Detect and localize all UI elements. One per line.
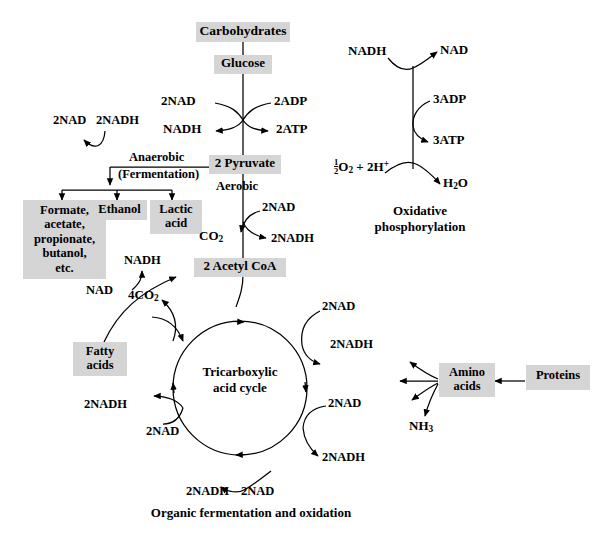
product-line-3: propionate, [34,232,95,246]
ammonia-subscript: 3 [429,424,434,434]
tca-left-nadh: 2NADH [84,397,127,411]
tca-cycle-title: Tricarboxylic acid cycle [180,364,300,395]
amino-acids-box: Amino acids [439,363,495,397]
oxphos-nad-label: NAD [440,43,468,58]
oxphos-adp-label: 3ADP [433,92,466,107]
lactic-acid-box: Lactic acid [150,200,202,234]
pyruvate-ox-nadh-label: 2NADH [271,231,314,245]
fermentation-label: (Fermentation) [118,167,199,181]
glycolysis-nad-label: 2NAD [161,94,196,109]
tca-title-line-2: acid cycle [213,380,267,395]
water-text: H [443,175,453,190]
product-line-4: butanol, [42,246,86,260]
co2-text: CO [199,228,219,243]
tca-co2-label: 4CO2 [128,288,159,304]
tca-right-lower-nad: 2NAD [328,396,361,410]
co2-label: CO2 [199,229,223,245]
fatty-acids-line-2: acids [86,358,113,372]
figure-caption: Organic fermentation and oxidation [101,505,401,521]
tca-co2-subscript: 2 [154,293,159,303]
product-line-2: acetate, [44,217,85,231]
carbohydrates-label: Carbohydrates [200,23,287,38]
aerobic-label: Aerobic [216,179,258,193]
glycolysis-atp-label: 2ATP [276,122,308,137]
proteins-label: Proteins [536,368,580,382]
fermentation-nad-label: 2NAD [53,113,86,127]
tca-right-upper-nadh: 2NADH [330,337,373,351]
product-line-1: Formate, [40,203,89,217]
fatty-acid-nadh-label: NADH [124,253,161,267]
lactic-acid-line-2: acid [165,216,187,230]
ethanol-label: Ethanol [98,202,140,216]
glycolysis-adp-label: 2ADP [274,94,307,109]
pyruvate-ox-nad-label: 2NAD [262,200,295,214]
glucose-box: Glucose [214,55,272,74]
fatty-acids-line-1: Fatty [86,344,114,358]
tca-bottom-nad: 2NAD [241,484,274,498]
lactic-acid-line-1: Lactic [159,202,192,216]
carbohydrates-box: Carbohydrates [196,22,290,42]
proton-text: + 2H [353,159,384,174]
oxphos-nadh-label: NADH [348,44,386,59]
fatty-acid-nad-label: NAD [86,283,113,297]
glucose-label: Glucose [221,55,265,70]
co2-subscript: 2 [219,234,224,244]
tca-right-lower-nadh: 2NADH [322,450,365,464]
water-label: H2O [443,176,468,192]
oxphos-title-line-1: Oxidative [393,203,447,218]
tca-co2-text: 4CO [128,287,154,302]
oxphos-title: Oxidative phosphorylation [345,203,495,235]
oxygen-label: 12O2 + 2H+ [334,158,389,176]
ethanol-box: Ethanol [92,200,147,220]
ammonia-label: NH3 [409,419,433,435]
pyruvate-box: 2 Pyruvate [209,155,281,174]
proteins-box: Proteins [526,365,590,390]
metabolism-diagram: Carbohydrates Glucose 2NAD 2ADP NADH 2AT… [0,0,603,534]
fermentation-nadh-label: 2NADH [96,113,139,127]
oxphos-atp-label: 3ATP [433,133,465,148]
glycolysis-nadh-label: NADH [163,122,201,137]
acetyl-coa-label: 2 Acetyl CoA [204,258,277,273]
tca-right-upper-nad: 2NAD [322,299,355,313]
oxphos-title-line-2: phosphorylation [374,219,465,234]
amino-acids-line-2: acids [453,379,480,393]
product-line-5: etc. [55,261,73,275]
proton-superscript: + [384,159,389,169]
anaerobic-label: Anaerobic [129,150,184,164]
fatty-acids-box: Fatty acids [73,342,127,376]
tca-left-nad: 2NAD [146,424,179,438]
tca-bottom-nadh: 2NADH [186,484,229,498]
amino-acids-line-1: Amino [449,365,485,379]
water-oxygen: O [458,175,468,190]
oxygen-text: O [338,159,348,174]
tca-title-line-1: Tricarboxylic [203,364,278,379]
pyruvate-label: 2 Pyruvate [215,155,275,170]
ammonia-text: NH [409,418,429,433]
acetyl-coa-box: 2 Acetyl CoA [194,258,286,277]
